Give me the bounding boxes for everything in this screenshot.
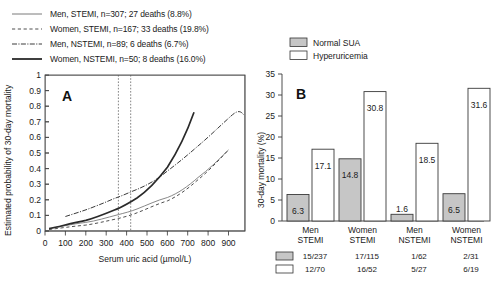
x-tick-o: 400 — [120, 238, 134, 248]
fraction-cell: 2/31 — [463, 252, 479, 261]
curve-women-nstemi — [49, 112, 194, 228]
panel-b-category-labels: Men STEMI Women STEMI Men NSTEMI Women N… — [298, 225, 483, 245]
fraction-cell: 15/237 — [303, 252, 328, 261]
legend-b-item-label: Hyperuricemia — [313, 51, 368, 61]
swatch-gray-icon — [276, 252, 293, 260]
panel-a-chart: Estimated probability of 30-day mortalit… — [0, 68, 255, 283]
panel-a-plot-frame-top — [45, 75, 245, 231]
x-tick-o: 600 — [160, 238, 174, 248]
panel-b-y-axis-title: 30-day mortality (%) — [256, 132, 266, 208]
legend-a-item-label: Women, STEMI, n=167; 33 deaths (19.8%) — [50, 24, 209, 34]
legend-a-item-women-nstemi: Women, NSTEMI, n=50; 8 deaths (16.0%) — [12, 51, 257, 66]
bar-hyperuricemia-men-stemi — [312, 149, 334, 221]
fraction-cell: 1/62 — [411, 252, 427, 261]
category-label-line2: STEMI — [298, 235, 324, 245]
y-tick-o: 0.2 — [29, 195, 41, 205]
category-label-line1: Women — [452, 225, 481, 235]
legend-a-item-label: Men, STEMI, n=307; 27 deaths (8.8%) — [50, 9, 192, 19]
line-thin-solid-icon — [12, 9, 42, 19]
legend-a-item-label: Women, NSTEMI, n=50; 8 deaths (16.0%) — [50, 54, 206, 64]
bar-label: 6.5 — [448, 205, 460, 215]
swatch-gray-icon — [290, 38, 307, 47]
bar-label: 17.1 — [315, 161, 332, 171]
y-tick-o: 0.6 — [29, 132, 41, 142]
panel-a-legend: Men, STEMI, n=307; 27 deaths (8.8%) Wome… — [12, 6, 257, 66]
panel-a-label: A — [62, 88, 72, 104]
legend-a-item-men-nstemi: Men, NSTEMI, n=89; 6 deaths (6.7%) — [12, 36, 257, 51]
x-tick-o: 500 — [140, 238, 154, 248]
curve-men-nstemi — [65, 112, 243, 217]
y-tick-o: 0 — [36, 226, 41, 236]
bar-label: 18.5 — [419, 155, 436, 165]
line-thick-solid-icon — [12, 54, 42, 64]
y-tick-o: 0.9 — [29, 86, 41, 96]
y-tick-o: 0.5 — [29, 148, 41, 158]
swatch-white-icon — [290, 51, 307, 60]
category-label-line1: Men — [406, 225, 423, 235]
y-tick: 30 — [266, 90, 276, 100]
y-tick: 35 — [266, 69, 276, 79]
legend-a-item-women-stemi: Women, STEMI, n=167; 33 deaths (19.8%) — [12, 21, 257, 36]
category-label-line2: NSTEMI — [450, 235, 482, 245]
panel-b-legend: Normal SUA Hyperuricemia — [290, 38, 368, 61]
fraction-cell: 6/19 — [463, 265, 479, 274]
panel-b-y-ticks: 0 5 10 15 20 25 30 35 — [266, 69, 282, 226]
panel-a-svg: Estimated probability of 30-day mortalit… — [0, 68, 255, 283]
panel-a-y-axis-title-o: Estimated probability of 30-day mortalit… — [3, 84, 13, 236]
line-dashed-icon — [12, 24, 42, 34]
legend-a-item-label: Men, NSTEMI, n=89; 6 deaths (6.7%) — [50, 39, 189, 49]
panel-b-svg: Normal SUA Hyperuricemia 30-day mortalit… — [252, 36, 497, 287]
y-tick-o: 0.7 — [29, 117, 41, 127]
x-tick-o: 700 — [181, 238, 195, 248]
panel-b-label: B — [296, 86, 306, 102]
line-dash-dot-icon — [12, 39, 42, 49]
swatch-white-icon — [276, 265, 293, 273]
y-tick-o: 0.4 — [29, 164, 41, 174]
panel-b-fraction-table: 15/237 17/115 1/62 2/31 12/70 16/52 5/27… — [276, 252, 479, 274]
y-tick-o: 0.1 — [29, 210, 41, 220]
fraction-cell: 16/52 — [357, 265, 378, 274]
y-tick: 10 — [266, 174, 276, 184]
bar-normal-sua-men-nstemi — [391, 214, 413, 221]
fraction-cell: 17/115 — [355, 252, 379, 261]
category-label-line1: Women — [348, 225, 377, 235]
x-tick-o: 300 — [99, 238, 113, 248]
curve-women-stemi — [49, 150, 228, 230]
bar-label: 14.8 — [342, 170, 359, 180]
panel-a-plot-frame — [45, 75, 245, 231]
bar-label: 31.6 — [471, 100, 488, 110]
y-tick: 15 — [266, 153, 276, 163]
y-tick: 5 — [270, 195, 275, 205]
x-tick-o: 0 — [43, 238, 48, 248]
bar-normal-sua-women-stemi — [339, 159, 361, 221]
x-tick-o: 200 — [79, 238, 93, 248]
y-tick: 20 — [266, 132, 276, 142]
bar-label: 30.8 — [367, 103, 384, 113]
category-label-line2: STEMI — [350, 235, 376, 245]
category-label-line2: NSTEMI — [398, 235, 430, 245]
x-tick-o: 100 — [58, 238, 72, 248]
y-tick: 25 — [266, 111, 276, 121]
panel-b-chart: Normal SUA Hyperuricemia 30-day mortalit… — [252, 36, 497, 287]
panel-a-x-axis-title-o: Serum uric acid (µmol/L) — [99, 254, 192, 264]
legend-a-item-men-stemi: Men, STEMI, n=307; 27 deaths (8.8%) — [12, 6, 257, 21]
bar-label: 1.6 — [396, 204, 408, 214]
bar-label: 6.3 — [292, 206, 304, 216]
y-tick-o: 0.3 — [29, 179, 41, 189]
curve-men-stemi — [49, 150, 228, 229]
legend-b-item-label: Normal SUA — [313, 38, 361, 48]
fraction-cell: 12/70 — [305, 265, 326, 274]
y-tick-o: 0.8 — [29, 101, 41, 111]
y-tick: 0 — [270, 216, 275, 226]
figure-root: Men, STEMI, n=307; 27 deaths (8.8%) Wome… — [0, 0, 497, 287]
x-tick-o: 800 — [201, 238, 215, 248]
fraction-cell: 5/27 — [411, 265, 427, 274]
category-label-line1: Men — [302, 225, 319, 235]
x-tick-o: 900 — [221, 238, 235, 248]
y-tick-o: 1 — [36, 70, 41, 80]
